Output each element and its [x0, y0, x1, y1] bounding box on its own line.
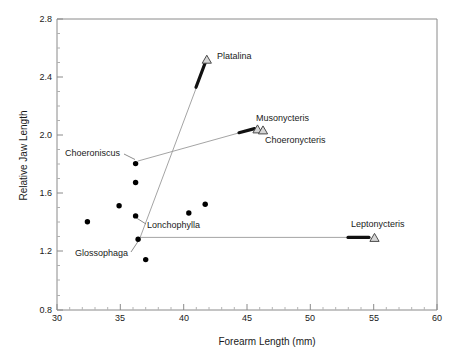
x-tick-label: 40 — [171, 313, 197, 323]
y-tick-label: 2.0 — [28, 130, 52, 140]
annotation-glossophaga: Glossophaga — [75, 248, 128, 258]
annotation-lonchophylla: Lonchophylla — [147, 220, 200, 230]
y-axis-title: Relative Jaw Length — [18, 86, 29, 226]
data-point — [186, 210, 191, 215]
transition-arrow-choeroniscus-musonycteris — [138, 129, 255, 162]
annotation-choeronycteris: Choeronycteris — [265, 135, 326, 145]
leader-choeroniscus — [124, 154, 135, 160]
x-tick-label: 55 — [361, 313, 387, 323]
y-tick-label: 1.2 — [28, 246, 52, 256]
annotation-platalina: Platalina — [217, 51, 252, 61]
x-tick-label: 45 — [234, 313, 260, 323]
data-points-derived — [202, 55, 379, 241]
data-point — [85, 219, 90, 224]
axes-frame — [57, 19, 437, 310]
annotation-musonycteris: Musonycteris — [256, 113, 309, 123]
data-point — [135, 237, 140, 242]
scatter-plot-figure: 2.8 2.4 2.0 1.6 1.2 0.8 30 35 40 45 50 5… — [0, 0, 454, 360]
leader-lonchophylla — [137, 218, 147, 224]
transition-arrow-glossophaga-platalina — [140, 60, 207, 238]
annotation-choeroniscus: Choeroniscus — [65, 148, 120, 158]
triangle-marker-leptonycteris — [370, 233, 379, 241]
y-tick-label: 1.6 — [28, 188, 52, 198]
data-point — [143, 257, 148, 262]
x-tick-label: 30 — [44, 313, 70, 323]
x-axis-title: Forearm Length (mm) — [97, 336, 437, 347]
data-point — [203, 202, 208, 207]
data-point — [133, 180, 138, 185]
y-tick-label: 2.4 — [28, 72, 52, 82]
triangle-marker-platalina — [202, 55, 211, 63]
data-point — [133, 161, 138, 166]
annotation-leptonycteris: Leptonycteris — [351, 219, 405, 229]
data-point — [116, 203, 121, 208]
x-tick-label: 35 — [107, 313, 133, 323]
x-major-ticks — [57, 304, 437, 310]
x-tick-label: 50 — [297, 313, 323, 323]
y-tick-label: 2.8 — [28, 14, 52, 24]
x-tick-label: 60 — [424, 313, 450, 323]
data-point — [133, 213, 138, 218]
